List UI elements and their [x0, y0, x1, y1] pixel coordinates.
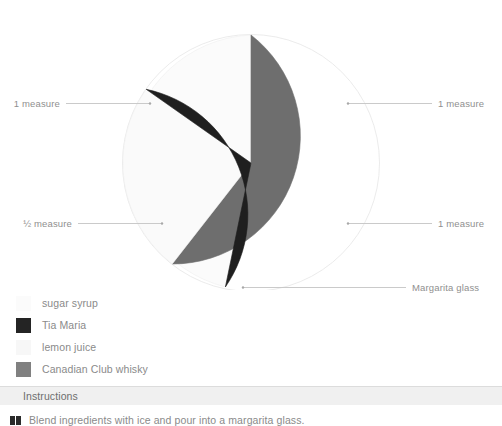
- color-swatch-icon: [16, 318, 31, 333]
- instructions-header: Instructions: [0, 386, 502, 405]
- legend-item-canadian-club-whisky[interactable]: Canadian Club whisky: [16, 358, 256, 380]
- legend-item-label: Canadian Club whisky: [42, 364, 148, 375]
- legend-item-lemon-juice[interactable]: lemon juice: [16, 336, 256, 358]
- instruction-step: Blend ingredients with ice and pour into…: [0, 414, 502, 426]
- callout-label-tia-maria: ½ measure: [0, 219, 72, 229]
- pie-chart-area: 1 measure ½ measure 1 measure 1 measure …: [0, 0, 502, 290]
- instructions-title: Instructions: [23, 391, 78, 402]
- color-swatch-icon: [16, 296, 31, 311]
- instruction-step-text: Blend ingredients with ice and pour into…: [29, 414, 305, 426]
- legend-item-label: sugar syrup: [42, 298, 98, 309]
- instructions-section: Instructions Blend ingredients with ice …: [0, 386, 502, 426]
- pie-chart-svg: [0, 0, 502, 290]
- legend-item-label: lemon juice: [42, 342, 96, 353]
- color-swatch-icon: [16, 362, 31, 377]
- legend-item-sugar-syrup[interactable]: sugar syrup: [16, 292, 256, 314]
- chart-legend: sugar syrup Tia Maria lemon juice Canadi…: [16, 292, 256, 380]
- callout-label-lemon-juice: 1 measure: [438, 219, 484, 229]
- instructions-body: Blend ingredients with ice and pour into…: [0, 405, 502, 426]
- step-number-icon: [10, 416, 21, 425]
- callout-label-canadian-club-whisky: 1 measure: [438, 99, 484, 109]
- legend-item-tia-maria[interactable]: Tia Maria: [16, 314, 256, 336]
- legend-item-label: Tia Maria: [42, 320, 86, 331]
- callout-label-sugar-syrup: 1 measure: [0, 99, 60, 109]
- color-swatch-icon: [16, 340, 31, 355]
- callout-label-margarita-glass: Margarita glass: [412, 283, 479, 293]
